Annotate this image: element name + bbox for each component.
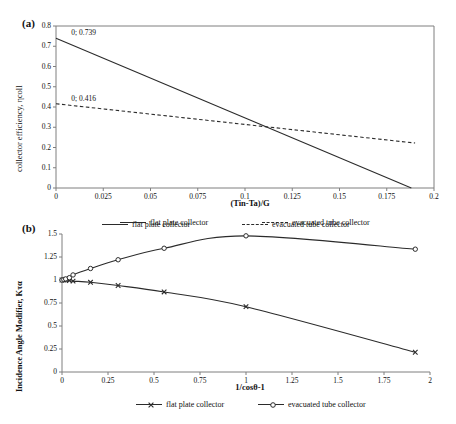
x-tick-label: 0 [38, 192, 74, 201]
y-tick-label: 0.5 [22, 82, 51, 91]
y-tick-label: 0.25 [28, 344, 57, 353]
plot-area-b [0, 212, 456, 424]
legend-item-evacuated-tube-b-top: evacuated tube collector [262, 218, 370, 227]
x-tick-label: 0.175 [369, 192, 405, 201]
legend-label: evacuated tube collector [292, 218, 370, 227]
y-tick-label: 1 [28, 275, 57, 284]
legend-item-evacuated-tube-b-bottom: evacuated tube collector [258, 400, 366, 409]
y-tick-label: 0.3 [22, 122, 51, 131]
x-tick-label: 0.1 [227, 192, 263, 201]
legend-label: evacuated tube collector [288, 400, 366, 409]
y-tick-label: 0.5 [28, 321, 57, 330]
legend-item-flat-plate-b-bottom: flat plate collector [136, 400, 224, 409]
legend-swatch-solid [120, 219, 146, 227]
x-tick-label: 0.75 [182, 376, 218, 385]
x-tick-label: 0.05 [133, 192, 169, 201]
cross-marker-icon [147, 401, 155, 409]
y-tick-label: 0.2 [22, 143, 51, 152]
plot-area-a [0, 0, 456, 212]
x-tick-label: 1.25 [274, 376, 310, 385]
x-tick-label: 0.125 [274, 192, 310, 201]
legend-label: flat plate collector [166, 400, 224, 409]
y-tick-label: 0.8 [22, 21, 51, 30]
data-point-annotation: 0; 0.416 [71, 94, 96, 103]
x-tick-label: 2 [412, 376, 448, 385]
x-tick-label: 1.5 [320, 376, 356, 385]
y-tick-label: 1.25 [28, 252, 57, 261]
x-tick-label: 1 [228, 376, 264, 385]
x-tick-label: 0.2 [416, 192, 452, 201]
data-point-annotation: 0; 0.739 [71, 28, 96, 37]
y-tick-label: 0.6 [22, 62, 51, 71]
x-tick-label: 0.025 [85, 192, 121, 201]
y-tick-label: 0 [22, 183, 51, 192]
x-tick-label: 0.25 [90, 376, 126, 385]
circle-marker-icon [269, 401, 277, 409]
x-tick-label: 1.75 [366, 376, 402, 385]
y-tick-label: 0 [28, 367, 57, 376]
legend-swatch-solid-cross [136, 401, 162, 409]
y-tick-label: 0.1 [22, 163, 51, 172]
y-tick-label: 1.5 [28, 229, 57, 238]
y-tick-label: 0.4 [22, 102, 51, 111]
x-tick-label: 0.075 [180, 192, 216, 201]
legend-item-flat-plate-b-top: flat plate collector [120, 218, 208, 227]
x-tick-label: 0.5 [136, 376, 172, 385]
legend-label: flat plate collector [150, 218, 208, 227]
figure-container: (a) collector efficiency, ηcoll (Tin-Ta)… [0, 0, 456, 424]
x-tick-label: 0 [44, 376, 80, 385]
x-tick-label: 0.15 [322, 192, 358, 201]
chart-panel-a: (a) collector efficiency, ηcoll (Tin-Ta)… [0, 0, 456, 212]
y-axis-title-b: Incidence Angle Modifier, Kτα [14, 281, 24, 392]
y-tick-label: 0.75 [28, 298, 57, 307]
legend-swatch-dashed [262, 219, 288, 227]
legend-swatch-solid-circle [258, 401, 284, 409]
y-tick-label: 0.7 [22, 41, 51, 50]
chart-panel-b: (b) Incidence Angle Modifier, Kτα 1/cosθ… [0, 212, 456, 424]
